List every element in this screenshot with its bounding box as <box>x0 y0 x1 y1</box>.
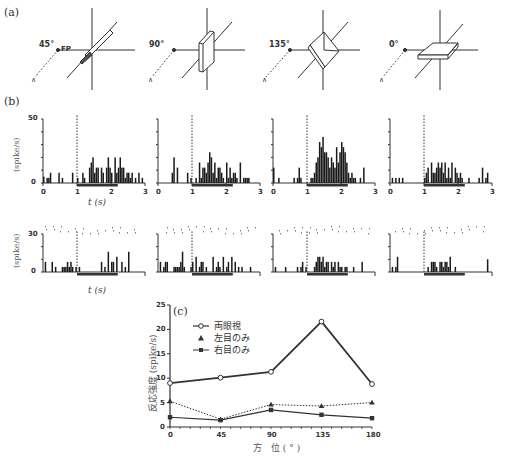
data-point-marker <box>319 319 324 324</box>
y-tick-label: 0 <box>160 423 165 431</box>
data-point-marker <box>168 415 172 419</box>
orientation-tuning-chart <box>0 0 507 462</box>
data-point-marker <box>218 418 222 422</box>
y-tick-label: 25 <box>156 301 166 309</box>
y-tick-label: 5 <box>160 399 165 407</box>
x-tick-label: 0 <box>168 431 173 439</box>
tuning-x-axis-title: 方 位(°) <box>253 441 303 454</box>
data-point-marker <box>269 369 274 374</box>
x-tick-label: 180 <box>366 431 381 439</box>
data-point-marker <box>168 381 173 386</box>
data-point-marker <box>218 375 223 380</box>
filled-square-marker-icon <box>192 345 210 355</box>
data-point-marker <box>269 408 273 412</box>
triangle-marker-icon <box>192 333 210 343</box>
data-point-marker <box>319 403 325 408</box>
x-tick-label: 90 <box>267 431 277 439</box>
legend-label-right-eye: 右目のみ <box>214 343 250 356</box>
x-tick-label: 135 <box>316 431 331 439</box>
y-tick-label: 20 <box>156 325 166 333</box>
tuning-y-axis-title: 反応強度 (spike/s) <box>146 334 159 412</box>
data-point-marker <box>369 400 375 405</box>
data-point-marker <box>167 398 173 403</box>
data-point-marker <box>370 416 374 420</box>
data-point-marker <box>370 382 375 387</box>
data-point-marker <box>319 413 323 417</box>
open-circle-marker-icon <box>192 321 210 331</box>
x-tick-label: 45 <box>217 431 227 439</box>
